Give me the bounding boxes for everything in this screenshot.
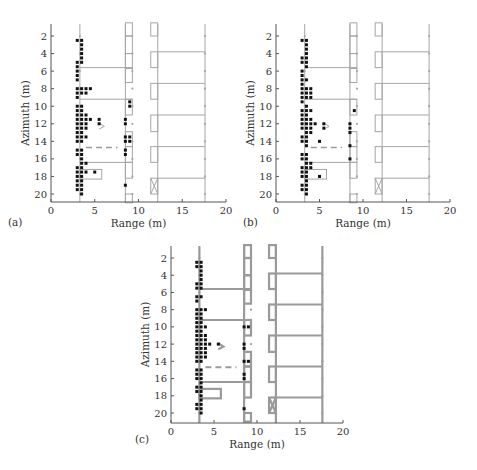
- grid-dot: [250, 360, 252, 362]
- detection-point: [200, 343, 203, 346]
- detection-point: [301, 135, 304, 138]
- detection-point: [247, 325, 250, 328]
- detection-point: [200, 412, 203, 415]
- detection-point: [200, 373, 203, 376]
- detection-point: [204, 347, 207, 350]
- detection-point: [89, 87, 92, 90]
- detection-point: [76, 118, 79, 121]
- grid-dot: [204, 105, 206, 107]
- detection-point: [85, 171, 88, 174]
- y-tick-label: 2: [266, 31, 272, 42]
- detection-point: [200, 334, 203, 337]
- detection-point: [318, 175, 321, 178]
- y-tick-label: 4: [41, 48, 47, 59]
- wall-segment: [125, 162, 132, 178]
- y-tick-label: 14: [154, 356, 167, 367]
- x-tick-label: 5: [211, 426, 217, 437]
- detection-point: [195, 356, 198, 359]
- wall-segment: [125, 23, 132, 36]
- y-tick-label: 20: [259, 189, 272, 200]
- detection-point: [200, 308, 203, 311]
- detection-point: [195, 321, 198, 324]
- detection-point: [195, 360, 198, 363]
- detection-point: [243, 343, 246, 346]
- grid-dot: [131, 158, 133, 160]
- detection-point: [80, 105, 83, 108]
- detection-point: [80, 114, 83, 117]
- detection-point: [128, 140, 131, 143]
- detection-point: [195, 351, 198, 354]
- building-structure: [79, 23, 206, 203]
- detection-point: [305, 179, 308, 182]
- detection-point: [195, 338, 198, 341]
- detection-point: [76, 131, 79, 134]
- detection-point: [76, 140, 79, 143]
- detection-point: [80, 188, 83, 191]
- detection-point: [200, 325, 203, 328]
- y-tick-label: 18: [34, 171, 47, 182]
- y-tick-label: 4: [266, 48, 272, 59]
- detection-point: [305, 43, 308, 46]
- detection-point: [301, 109, 304, 112]
- detection-point: [80, 48, 83, 51]
- x-tick-label: 10: [357, 205, 370, 216]
- detection-point: [208, 343, 211, 346]
- y-tick-label: 14: [34, 136, 47, 147]
- grid-dot: [428, 88, 430, 90]
- detection-point: [348, 157, 351, 160]
- y-tick-label: 6: [266, 66, 272, 77]
- subplot-c: 051015202468101214161820Range (m)Azimuth…: [135, 245, 349, 450]
- detection-point: [301, 87, 304, 90]
- detection-point: [195, 265, 198, 268]
- detection-point: [301, 70, 304, 73]
- grid-dot: [131, 52, 133, 54]
- detection-point: [305, 184, 308, 187]
- detection-point: [80, 162, 83, 165]
- detection-point: [301, 83, 304, 86]
- detection-point: [76, 122, 79, 125]
- y-tick-label: 14: [259, 136, 272, 147]
- detection-point: [76, 87, 79, 90]
- y-tick-label: 16: [154, 373, 167, 384]
- detection-point: [301, 78, 304, 81]
- data-points: [195, 261, 250, 415]
- detection-point: [200, 261, 203, 264]
- subplot-b: 051015202468101214161820Range (m)Azimuth…: [243, 23, 456, 229]
- wall-segment: [350, 99, 357, 115]
- detection-point: [85, 122, 88, 125]
- grid-dot: [428, 35, 430, 37]
- detection-point: [200, 265, 203, 268]
- detection-point: [301, 61, 304, 64]
- y-tick-label: 6: [41, 66, 47, 77]
- panel-label: (b): [243, 216, 258, 228]
- grid-dot: [131, 35, 133, 37]
- detection-point: [195, 330, 198, 333]
- detection-point: [85, 114, 88, 117]
- x-tick-label: 10: [132, 205, 145, 216]
- door-segment: [375, 147, 382, 163]
- detection-point: [76, 166, 79, 169]
- detection-point: [305, 127, 308, 130]
- detection-point: [195, 390, 198, 393]
- y-tick-label: 16: [259, 153, 272, 164]
- detection-point: [195, 325, 198, 328]
- detection-point: [80, 184, 83, 187]
- grid-dot: [321, 257, 323, 259]
- detection-point: [243, 347, 246, 350]
- detection-point: [301, 118, 304, 121]
- detection-point: [85, 92, 88, 95]
- detection-point: [200, 269, 203, 272]
- detection-point: [301, 140, 304, 143]
- detection-point: [76, 153, 79, 156]
- y-axis-label: Azimuth (m): [244, 80, 256, 147]
- detection-point: [76, 149, 79, 152]
- grid-dot: [428, 193, 430, 195]
- detection-point: [204, 356, 207, 359]
- detection-point: [353, 109, 356, 112]
- detection-point: [80, 52, 83, 55]
- detection-point: [305, 114, 308, 117]
- grid-dot: [321, 274, 323, 276]
- door-segment: [151, 147, 158, 163]
- x-tick-label: 10: [251, 426, 264, 437]
- detection-point: [200, 347, 203, 350]
